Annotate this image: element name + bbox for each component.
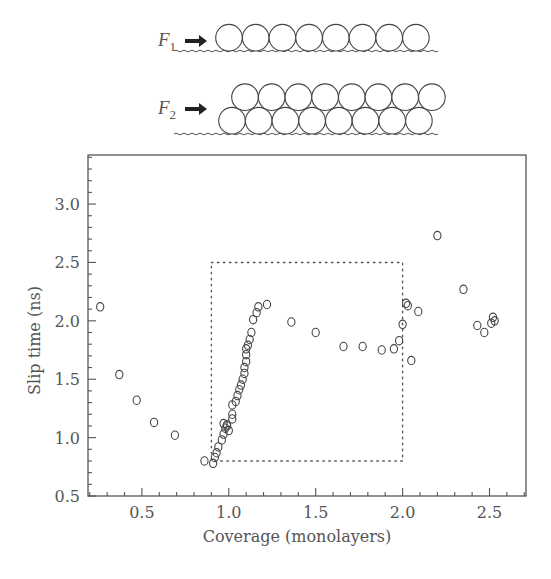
sphere-upper [392,84,419,111]
force-label: F2 [157,97,176,122]
x-tick-label: 2.0 [390,503,415,522]
sphere-upper [232,84,259,111]
data-point [210,459,217,467]
sphere [242,24,269,51]
y-axis-label: Slip time (ns) [25,286,44,395]
data-point [402,299,409,307]
sphere-lower [245,107,272,134]
dotted-rectangle [211,262,402,461]
sphere [376,24,403,51]
y-tick-label: 1.5 [55,370,80,389]
x-axis-label: Coverage (monolayers) [203,527,392,546]
sphere-upper [339,84,366,111]
force-arrow-icon [185,35,207,47]
data-point [288,318,295,326]
sphere-upper [419,84,446,111]
data-point [234,391,241,399]
data-point [390,345,397,353]
x-axis-ticks: 0.51.01.52.02.5 [90,488,525,522]
sphere-upper [285,84,312,111]
sphere-lower [352,107,379,134]
data-point [408,356,415,364]
data-point [201,457,208,465]
data-point [396,336,403,344]
data-point [434,231,441,239]
sphere-upper [258,84,285,111]
sphere-lower [379,107,406,134]
plot-frame [88,155,526,496]
data-point [359,342,366,350]
y-tick-label: 1.0 [55,429,80,448]
data-point [241,363,248,371]
sphere [269,24,296,51]
data-point [171,431,178,439]
sphere [296,24,323,51]
sphere-upper [312,84,339,111]
schematic-diagram: F1F2 [157,24,445,134]
data-point [255,303,262,311]
dotted-region-box [211,262,402,461]
data-point [481,328,488,336]
sphere [349,24,376,51]
data-point [263,300,270,308]
sphere [323,24,350,51]
x-tick-label: 1.5 [303,503,328,522]
data-point [312,328,319,336]
figure: F1F2 0.51.01.52.02.5 0.51.01.52.02.53.0 … [0,0,551,579]
y-tick-label: 0.5 [55,487,80,506]
data-point [460,285,467,293]
x-tick-label: 1.0 [216,503,241,522]
sphere-lower [299,107,326,134]
sphere-lower [326,107,353,134]
data-point [378,346,385,354]
sphere-upper [365,84,392,111]
scatter-plot: 0.51.01.52.02.5 0.51.01.52.02.53.0 Cover… [25,155,526,546]
data-point [116,370,123,378]
sphere [403,24,430,51]
data-point [97,303,104,311]
x-tick-label: 0.5 [129,503,154,522]
sphere-lower [406,107,433,134]
data-point [415,307,422,315]
data-point [474,321,481,329]
force-arrow-icon [185,103,207,115]
y-tick-label: 2.0 [55,312,80,331]
y-axis-ticks: 0.51.01.52.02.53.0 [55,157,96,506]
data-points [97,231,499,467]
y-tick-label: 2.5 [55,253,80,272]
y-tick-label: 3.0 [55,195,80,214]
data-point [218,436,225,444]
force-label: F1 [157,29,176,54]
data-point [133,396,140,404]
data-point [404,301,411,309]
sphere [216,24,243,51]
sphere-lower [272,107,299,134]
data-point [239,375,246,383]
substrate-line [174,133,438,135]
sphere-lower [219,107,246,134]
x-tick-label: 2.5 [477,503,502,522]
data-point [340,342,347,350]
data-point [253,308,260,316]
data-point [150,418,157,426]
